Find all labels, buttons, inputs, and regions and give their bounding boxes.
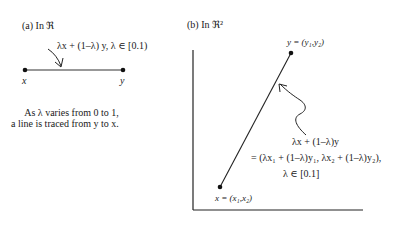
panel-a-point-y-label: y [120, 75, 124, 86]
segment-b [220, 53, 291, 187]
point-y-b [289, 51, 294, 56]
panel-b-formula-line1: λx + (1–λ)y [292, 136, 339, 147]
point-x-b [218, 185, 223, 190]
panel-a-caption-line2: a line is traced from y to x. [11, 118, 119, 129]
panel-a-formula: λx + (1–λ) y, λ ∈ [0.1) [57, 40, 147, 51]
panel-a-point-x-label: x [22, 75, 26, 86]
panel-b-point-x-label: x = (x₁,x₂) [215, 193, 252, 204]
panel-b-title: (b) In ℜ² [187, 19, 223, 30]
point-x-a [23, 68, 28, 73]
arrow-b-head-icon [279, 84, 287, 92]
arrow-a-icon [48, 49, 61, 66]
panel-a-title: (a) In ℜ [22, 20, 54, 31]
panel-b-point-y-label: y = (y₁,y₂) [287, 37, 324, 48]
panel-a-caption-line1: As λ varies from 0 to 1, [19, 107, 124, 118]
panel-b-formula-line2: = (λx₁ + (1–λ)y₁, λx₂ + (1–λ)y₂), [251, 152, 381, 163]
arrow-b-icon [280, 84, 306, 135]
panel-b-formula-line3: λ ∈ [0.1] [283, 168, 319, 179]
point-y-a [121, 68, 126, 73]
